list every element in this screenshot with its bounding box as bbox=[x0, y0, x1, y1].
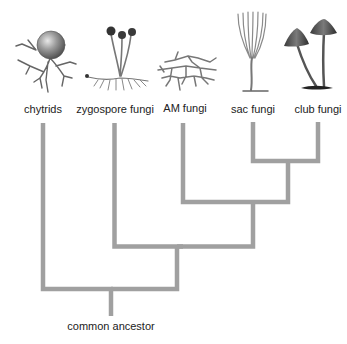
node-sac-club bbox=[253, 161, 288, 202]
tree-and-illustrations bbox=[0, 0, 347, 344]
am-fungi-illustration-icon bbox=[158, 52, 216, 90]
branch-zygospore bbox=[115, 123, 184, 247]
branch-sac bbox=[253, 122, 288, 161]
cladogram-branches bbox=[43, 122, 318, 316]
zygospore-fungi-illustration-icon bbox=[85, 27, 148, 91]
branch-club bbox=[288, 122, 318, 161]
node-zygo-rest bbox=[111, 247, 177, 290]
taxon-label-zygospore-fungi: zygospore fungi bbox=[76, 103, 154, 116]
branch-am bbox=[183, 123, 253, 202]
sac-fungi-illustration-icon bbox=[238, 12, 268, 91]
taxon-label-sac-fungi: sac fungi bbox=[231, 103, 275, 116]
club-fungi-illustration-icon bbox=[284, 19, 337, 90]
taxon-label-club-fungi: club fungi bbox=[294, 103, 341, 116]
taxon-label-am-fungi: AM fungi bbox=[163, 102, 206, 115]
chytrid-illustration-icon bbox=[16, 31, 76, 92]
root-label-common-ancestor: common ancestor bbox=[67, 320, 154, 333]
fungi-cladogram: chytrids zygospore fungi AM fungi sac fu… bbox=[0, 0, 347, 344]
node-am-sac-club bbox=[177, 202, 253, 247]
taxon-label-chytrids: chytrids bbox=[24, 103, 62, 116]
branch-chytrids bbox=[43, 123, 113, 289]
